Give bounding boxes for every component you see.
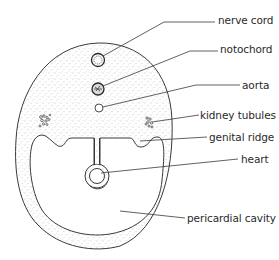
notochord-structure <box>92 83 104 95</box>
label-aorta: aorta <box>242 80 269 91</box>
label-heart: heart <box>241 154 268 165</box>
label-nerve-cord: nerve cord <box>218 15 273 26</box>
label-genital-ridge: genital ridge <box>209 132 274 143</box>
aorta-structure <box>95 104 103 112</box>
label-pericardial-cavity: pericardial cavity <box>187 213 276 224</box>
label-kidney-tubules: kidney tubules <box>200 110 276 121</box>
label-notochord: notochord <box>220 44 272 55</box>
nerve-cord-structure <box>92 54 105 67</box>
